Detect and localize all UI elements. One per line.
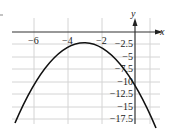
y-axis-arrow-icon (133, 18, 138, 26)
x-axis-label: x (159, 26, 165, 37)
y-tick-label: −2.5 (115, 38, 133, 49)
x-tick-label: −2 (96, 35, 107, 46)
y-axis-label: y (130, 8, 136, 19)
parabola-chart: x y −6 −4 −2 −2.5 −5 −7.5 −10 −12.5 −15 … (0, 0, 171, 130)
grid (12, 18, 160, 124)
y-tick-label: −17.5 (110, 113, 133, 124)
x-tick-label: −6 (28, 35, 39, 46)
y-tick-label: −12.5 (110, 88, 133, 99)
x-tick-label: −4 (62, 35, 73, 46)
y-tick-label: −15 (117, 101, 133, 112)
y-tick-label: −5 (122, 51, 133, 62)
